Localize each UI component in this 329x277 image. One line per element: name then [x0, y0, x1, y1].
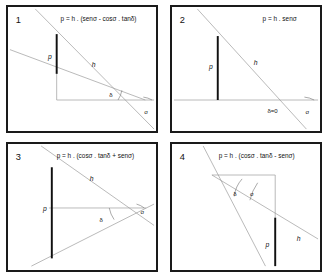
delta-arc: [109, 208, 114, 220]
panel-number: 1: [16, 15, 21, 25]
panel-4: 4 p = h . (cosσ . tanδ - senσ) p h δ σ: [170, 142, 322, 272]
h-label: h: [297, 235, 301, 242]
alpha-label: σ: [140, 209, 144, 215]
alpha-label: σ: [144, 109, 148, 115]
delta-line: [10, 50, 145, 100]
alpha-label: σ: [305, 109, 309, 115]
p-label: p: [42, 205, 47, 213]
panel-number: 4: [180, 152, 185, 162]
formula-text: p = h . (cosσ . tanδ - senσ): [219, 152, 295, 160]
delta-label: δ=0: [267, 108, 278, 114]
panel-number: 3: [16, 152, 21, 162]
formula-text: p = h . (cosσ . tanδ + senσ): [57, 152, 135, 160]
figure-sheet: 1 p = h . (senσ - cosσ . tanδ) p h δ σ 2…: [0, 0, 329, 277]
h-label: h: [254, 59, 258, 66]
panel-3: 3 p = h . (cosσ . tanδ + senσ) p h δ σ: [6, 142, 158, 272]
delta-label: δ: [233, 191, 237, 197]
panel-2: 2 p = h . senσ p h δ=0 σ: [170, 5, 322, 133]
h-line: [197, 9, 306, 129]
h-line: [212, 175, 318, 239]
delta-line: [31, 204, 154, 266]
formula-text: p = h . (senσ - cosσ . tanδ): [61, 15, 137, 23]
p-label: p: [264, 241, 269, 249]
panel-1-diagram: 1 p = h . (senσ - cosσ . tanδ) p h δ σ: [8, 7, 156, 131]
p-label: p: [208, 63, 213, 71]
delta-arc: [118, 90, 122, 100]
delta-label: δ: [109, 92, 113, 98]
alpha-label: σ: [250, 191, 254, 197]
alpha-arc: [304, 97, 314, 100]
h-line: [35, 9, 154, 129]
panel-1: 1 p = h . (senσ - cosσ . tanδ) p h δ σ: [6, 5, 158, 133]
formula-text: p = h . senσ: [263, 15, 297, 23]
h-label: h: [90, 175, 94, 182]
panel-3-diagram: 3 p = h . (cosσ . tanδ + senσ) p h δ σ: [8, 144, 156, 270]
delta-label: δ: [100, 217, 104, 223]
h-label: h: [92, 61, 96, 68]
panel-4-diagram: 4 p = h . (cosσ . tanδ - senσ) p h δ σ: [172, 144, 320, 270]
steep-line: [203, 146, 265, 266]
panel-2-diagram: 2 p = h . senσ p h δ=0 σ: [172, 7, 320, 131]
panel-number: 2: [180, 15, 185, 25]
p-label: p: [47, 53, 52, 61]
alpha-arc: [137, 204, 145, 208]
